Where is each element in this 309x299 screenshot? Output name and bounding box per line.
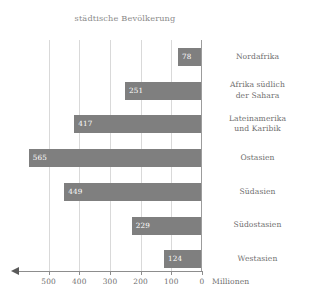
category-label-line: Südasien (206, 187, 309, 198)
bar: 449 (64, 183, 202, 201)
category-label-line: Westasien (206, 254, 309, 265)
bar-row: 417 (18, 115, 202, 133)
category-label: Westasien (206, 254, 309, 265)
tick-mark-300 (110, 271, 111, 275)
category-label: Afrika südlichder Sahara (206, 80, 309, 101)
bar-value-label: 417 (78, 115, 92, 133)
bar: 565 (29, 149, 202, 167)
bar-row: 78 (18, 48, 202, 66)
category-label-line: der Sahara (206, 91, 309, 102)
bar-row: 449 (18, 183, 202, 201)
bar-row: 251 (18, 82, 202, 100)
bar-value-label: 78 (182, 48, 192, 66)
bar-value-label: 251 (129, 82, 143, 100)
chart-title: städtische Bevölkerung (0, 13, 250, 23)
category-label-line: Lateinamerika (206, 114, 309, 125)
bar-row: 565 (18, 149, 202, 167)
bar-row: 124 (18, 250, 202, 268)
category-label: Nordafrika (206, 52, 309, 63)
tick-mark-0 (202, 271, 203, 275)
bar: 251 (125, 82, 202, 100)
x-axis-arrow-icon (11, 267, 19, 275)
tick-mark-200 (141, 271, 142, 275)
category-label-line: Nordafrika (206, 52, 309, 63)
bar: 417 (74, 115, 202, 133)
bar-value-label: 229 (136, 217, 150, 235)
zero-axis-line (201, 40, 202, 271)
category-label-line: Südostasien (206, 220, 309, 231)
tick-mark-500 (49, 271, 50, 275)
bar: 78 (178, 48, 202, 66)
bar: 124 (164, 250, 202, 268)
category-label: Ostasien (206, 153, 309, 164)
category-label-line: Afrika südlich (206, 80, 309, 91)
bar-value-label: 124 (168, 250, 182, 268)
tick-mark-400 (79, 271, 80, 275)
category-label-line: Ostasien (206, 153, 309, 164)
category-label: Lateinamerikaund Karibik (206, 114, 309, 135)
category-label-line: und Karibik (206, 124, 309, 135)
bar-value-label: 449 (68, 183, 82, 201)
bar: 229 (132, 217, 202, 235)
tick-mark-100 (171, 271, 172, 275)
plot-area: 78251417565449229124 (18, 40, 202, 271)
x-axis-unit-label: Millionen (212, 277, 249, 286)
bar-value-label: 565 (33, 149, 47, 167)
category-label: Südasien (206, 187, 309, 198)
bar-chart: städtische Bevölkerung 78251417565449229… (0, 0, 309, 299)
category-axis-labels: NordafrikaAfrika südlichder SaharaLatein… (206, 40, 309, 271)
category-label: Südostasien (206, 220, 309, 231)
bar-row: 229 (18, 217, 202, 235)
